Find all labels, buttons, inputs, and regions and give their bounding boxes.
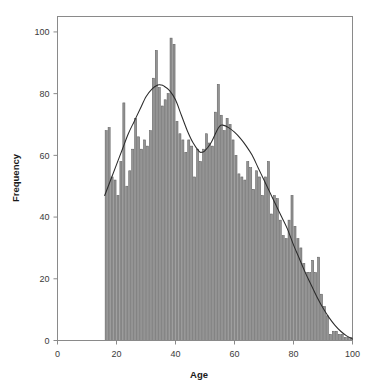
y-tick-label: 20 (39, 274, 49, 284)
y-tick-label: 80 (39, 89, 49, 99)
histogram-bar (117, 195, 119, 340)
histogram-bar (135, 118, 137, 340)
histogram-bars (105, 38, 352, 340)
histogram-bar (155, 50, 157, 340)
histogram-bar (176, 121, 178, 340)
y-tick-label: 40 (39, 212, 49, 222)
histogram-bar (194, 177, 196, 341)
histogram-bar (179, 134, 181, 341)
histogram-bar (256, 171, 258, 341)
histogram-figure: 020406080100 020406080100 Age Frequency (0, 0, 378, 390)
x-tick-label: 80 (288, 349, 298, 359)
histogram-bar (152, 78, 154, 340)
histogram-bar (167, 94, 169, 341)
histogram-bar (161, 106, 163, 341)
histogram-bar (188, 140, 190, 341)
histogram-bar (341, 334, 343, 340)
histogram-bar (202, 149, 204, 340)
histogram-bar (247, 162, 249, 341)
histogram-bar (114, 180, 116, 340)
histogram-bar (211, 146, 213, 340)
histogram-bar (312, 260, 314, 340)
histogram-bar (143, 140, 145, 341)
histogram-bar (108, 128, 110, 341)
histogram-bar (291, 195, 293, 340)
histogram-bar (303, 263, 305, 340)
x-tick-label: 40 (170, 349, 180, 359)
histogram-bar (250, 168, 252, 341)
histogram-bar (264, 177, 266, 341)
histogram-bar (170, 38, 172, 340)
histogram-bar (191, 146, 193, 340)
histogram-bar (238, 174, 240, 341)
x-tick-label: 60 (229, 349, 239, 359)
histogram-bar (164, 100, 166, 341)
histogram-bar (253, 189, 255, 340)
histogram-bar (226, 118, 228, 340)
histogram-bar (105, 131, 107, 341)
histogram-bar (229, 125, 231, 341)
histogram-bar (208, 143, 210, 340)
y-tick-label: 60 (39, 151, 49, 161)
histogram-bar (338, 334, 340, 340)
histogram-bar (241, 177, 243, 341)
histogram-bar (141, 149, 143, 340)
histogram-bar (282, 236, 284, 341)
histogram-bar (182, 140, 184, 341)
histogram-bar (200, 162, 202, 341)
histogram-bar (158, 87, 160, 340)
y-axis-title: Frequency (10, 153, 21, 202)
x-axis-title: Age (190, 369, 208, 380)
histogram-bar (132, 149, 134, 340)
histogram-bar (173, 44, 175, 340)
histogram-bar (223, 131, 225, 341)
histogram-bar (244, 180, 246, 340)
histogram-bar (235, 155, 237, 340)
histogram-bar (259, 177, 261, 341)
histogram-bar (315, 273, 317, 341)
histogram-bar (285, 239, 287, 341)
histogram-bar (329, 334, 331, 340)
histogram-bar (320, 294, 322, 340)
histogram-bar (146, 146, 148, 340)
histogram-bar (288, 220, 290, 340)
histogram-bar (129, 171, 131, 341)
x-axis-ticks: 020406080100 (55, 341, 360, 359)
histogram-bar (120, 162, 122, 341)
histogram-bar (261, 195, 263, 340)
x-tick-label: 20 (111, 349, 121, 359)
histogram-bar (197, 149, 199, 340)
y-tick-label: 0 (44, 336, 49, 346)
y-tick-label: 100 (34, 27, 49, 37)
x-tick-label: 100 (345, 349, 360, 359)
histogram-bar (205, 134, 207, 341)
histogram-bar (138, 137, 140, 341)
histogram-bar (214, 112, 216, 340)
histogram-bar (126, 186, 128, 340)
histogram-bar (185, 152, 187, 340)
histogram-bar (279, 220, 281, 340)
x-tick-label: 0 (55, 349, 60, 359)
histogram-bar (232, 140, 234, 341)
histogram-bar (217, 84, 219, 340)
histogram-bar (332, 331, 334, 340)
histogram-bar (270, 214, 272, 341)
histogram-bar (220, 115, 222, 340)
histogram-bar (294, 226, 296, 340)
histogram-bar (326, 316, 328, 341)
y-axis-ticks: 020406080100 (34, 27, 57, 346)
histogram-bar (335, 331, 337, 340)
chart-canvas: 020406080100 020406080100 Age Frequency (0, 0, 378, 390)
histogram-bar (149, 131, 151, 341)
histogram-bar (276, 199, 278, 341)
plot-frame (58, 17, 353, 341)
histogram-bar (123, 103, 125, 341)
histogram-bar (111, 177, 113, 341)
histogram-bar (273, 195, 275, 340)
histogram-bar (306, 273, 308, 341)
